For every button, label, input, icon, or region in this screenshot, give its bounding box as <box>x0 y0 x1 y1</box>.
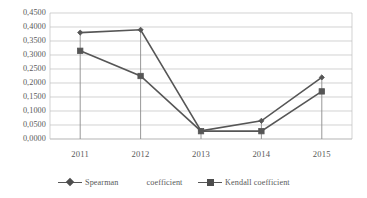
x-axis-tick-label-2013: 2013 <box>171 149 231 159</box>
x-axis-tick-label-2012: 2012 <box>110 149 170 159</box>
kendall-marker-icon <box>198 176 222 188</box>
marker-spearman <box>78 30 83 35</box>
x-axis-tick-label-2011: 2011 <box>50 149 110 159</box>
series-marker-group <box>78 27 325 134</box>
marker-kendall <box>78 48 83 53</box>
x-axis-tick-label-2014: 2014 <box>231 149 291 159</box>
spearman-marker-icon <box>58 176 82 188</box>
x-axis-tick-label-2015: 2015 <box>292 149 352 159</box>
legend-item-kendall[interactable]: Kendall coefficient <box>198 175 290 189</box>
y-axis-tick-label: 0,1500 <box>2 92 46 101</box>
legend-label-kendall: Kendall coefficient <box>225 178 290 187</box>
y-axis-tick-label: 0,0500 <box>2 120 46 129</box>
marker-kendall <box>259 128 264 133</box>
chart-legend: Spearman coefficient Kendall coefficient <box>0 172 367 194</box>
legend-item-spearman[interactable]: Spearman coefficient <box>58 175 183 189</box>
line-chart: 0,00000,05000,10000,15000,20000,25000,30… <box>0 0 367 198</box>
legend-label-spearman-part2: coefficient <box>147 178 183 187</box>
y-axis-tick-label: 0,4000 <box>2 22 46 31</box>
series-line-kendall <box>80 51 322 131</box>
series-line-group <box>80 30 322 131</box>
y-axis-tick-label: 0,3500 <box>2 36 46 45</box>
legend-label-spearman-part1: Spearman <box>85 178 119 187</box>
y-axis-tick-label: 0,1000 <box>2 106 46 115</box>
y-axis-tick-label: 0,4500 <box>2 8 46 17</box>
y-axis-tick-label: 0,2000 <box>2 78 46 87</box>
y-axis-tick-label: 0,0000 <box>2 134 46 143</box>
y-axis-tick-label: 0,2500 <box>2 64 46 73</box>
chart-plot-area <box>0 0 367 198</box>
marker-kendall <box>138 73 143 78</box>
marker-kendall <box>319 89 324 94</box>
marker-kendall <box>198 128 203 133</box>
y-axis-tick-label: 0,3000 <box>2 50 46 59</box>
dropline-group <box>80 30 322 139</box>
